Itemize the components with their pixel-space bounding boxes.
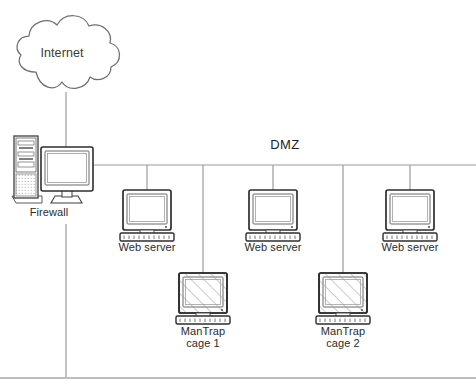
firewall-label: Firewall (9, 206, 89, 219)
web-server-1-icon (120, 190, 174, 241)
web-server-3-icon (383, 190, 437, 241)
mantrap-cage-2-label-line2: cage 2 (303, 337, 383, 350)
mantrap-cage-1-label-line2: cage 1 (163, 337, 243, 350)
dmz-label: DMZ (245, 139, 325, 152)
mantrap-cage-2-icon (316, 273, 370, 324)
web-server-1-label: Web server (107, 241, 187, 254)
internet-cloud-label: Internet (12, 47, 112, 60)
web-server-2-label: Web server (233, 241, 313, 254)
firewall-icon (12, 136, 93, 203)
mantrap-cage-1-icon (176, 273, 230, 324)
mantrap-cage-2-label-line1: ManTrap (303, 325, 383, 338)
mantrap-cage-1-label-line1: ManTrap (163, 325, 243, 338)
web-server-2-icon (246, 190, 300, 241)
network-diagram-canvas: Internet Firewall DMZ Web server Web ser… (0, 0, 476, 387)
web-server-3-label: Web server (370, 241, 450, 254)
